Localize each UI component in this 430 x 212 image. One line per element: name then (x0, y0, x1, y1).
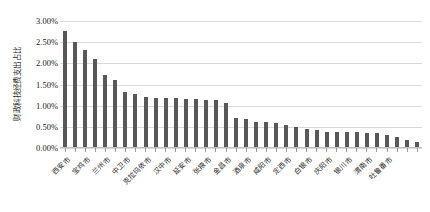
y-axis-title: 财政科技经费支出占比 (11, 14, 22, 154)
bar (93, 59, 97, 148)
bar (274, 123, 278, 148)
bar-slot (181, 21, 191, 148)
xlabel-slot: 克拉玛依市 (141, 152, 151, 210)
xlabel-slot: 宝鸡市 (80, 152, 90, 210)
bar-slot (80, 21, 90, 148)
bar-slot (291, 21, 301, 148)
bar-slot (151, 21, 161, 148)
bar (133, 94, 137, 148)
bar-slot (70, 21, 80, 148)
bar (375, 133, 379, 148)
bar (174, 98, 178, 148)
bar-slot (382, 21, 392, 148)
y-tick-label: 2.00% (36, 58, 58, 68)
bar (305, 129, 309, 148)
y-axis-tick-labels: 0.00%0.50%1.00%1.50%2.00%2.50%3.00% (22, 0, 58, 212)
bar-slot (191, 21, 201, 148)
bar (325, 132, 329, 149)
bar (154, 98, 158, 148)
xlabel-slot: 白银市 (302, 152, 312, 210)
bar-slot (342, 21, 352, 148)
bar-slot (110, 21, 120, 148)
bar-slot (211, 21, 221, 148)
bar (224, 103, 228, 148)
bar (365, 133, 369, 148)
bar-slot (90, 21, 100, 148)
xlabel-slot: 吐鲁番市 (382, 152, 392, 210)
xlabel-slot: 汉中市 (161, 152, 171, 210)
bar-slot (312, 21, 322, 148)
bar-slot (392, 21, 402, 148)
bar-slot (201, 21, 211, 148)
bar-slot (231, 21, 241, 148)
xlabel-slot: 酒泉市 (241, 152, 251, 210)
bar (73, 42, 77, 148)
bar-slot (352, 21, 362, 148)
bar-slot (141, 21, 151, 148)
bar (254, 122, 258, 148)
bar-slot (171, 21, 181, 148)
bar (264, 122, 268, 148)
bar-slot (251, 21, 261, 148)
bar-slot (120, 21, 130, 148)
bar (214, 100, 218, 148)
bar (244, 119, 248, 148)
xlabel-slot: 兰州市 (100, 152, 110, 210)
plot-area (60, 21, 422, 148)
xlabel-slot: 金昌市 (221, 152, 231, 210)
bar (164, 98, 168, 148)
y-tick-label: 0.50% (36, 122, 58, 132)
bar-slot (161, 21, 171, 148)
bar-slot (221, 21, 231, 148)
y-tick-label: 1.50% (36, 80, 58, 90)
bar (184, 99, 188, 148)
bar-slot (412, 21, 422, 148)
bar-series (60, 21, 422, 148)
bar (294, 127, 298, 148)
bar-chart: 财政科技经费支出占比 0.00%0.50%1.00%1.50%2.00%2.50… (0, 0, 430, 212)
bar (345, 132, 349, 148)
bar (194, 99, 198, 148)
xlabel-slot (412, 152, 422, 210)
bar-slot (281, 21, 291, 148)
bar (315, 130, 319, 148)
bar (284, 125, 288, 148)
xlabel-slot: 西安市 (60, 152, 70, 210)
xlabel-slot: 定西市 (281, 152, 291, 210)
bar (355, 132, 359, 148)
bar (335, 132, 339, 148)
bar-slot (402, 21, 412, 148)
bar (144, 97, 148, 148)
bar-slot (302, 21, 312, 148)
bar-slot (241, 21, 251, 148)
bar (204, 100, 208, 148)
bar-slot (130, 21, 140, 148)
bar-slot (100, 21, 110, 148)
x-axis-category-labels: 西安市宝鸡市兰州市中卫市克拉玛依市汉中市延安市张掖市金昌市酒泉市咸阳市定西市白银… (60, 152, 422, 210)
y-tick-label: 2.50% (36, 37, 58, 47)
bar (63, 31, 67, 148)
bar (83, 50, 87, 148)
bar (113, 80, 117, 148)
y-tick-label: 1.00% (36, 101, 58, 111)
bar-slot (322, 21, 332, 148)
xlabel-slot: 银川市 (342, 152, 352, 210)
bar-slot (332, 21, 342, 148)
xlabel-slot: 咸阳市 (261, 152, 271, 210)
xlabel-slot: 张掖市 (201, 152, 211, 210)
xlabel-slot: 庆阳市 (322, 152, 332, 210)
xlabel-slot (392, 152, 402, 210)
bar (234, 118, 238, 148)
bar (103, 75, 107, 148)
xlabel-slot (402, 152, 412, 210)
bar (123, 92, 127, 148)
y-tick-label: 0.00% (36, 143, 58, 153)
xlabel-slot: 延安市 (181, 152, 191, 210)
bar-slot (362, 21, 372, 148)
bar-slot (60, 21, 70, 148)
bar-slot (261, 21, 271, 148)
bar-slot (271, 21, 281, 148)
bar-slot (372, 21, 382, 148)
xlabel-slot: 渭南市 (362, 152, 372, 210)
y-tick-label: 3.00% (36, 16, 58, 26)
